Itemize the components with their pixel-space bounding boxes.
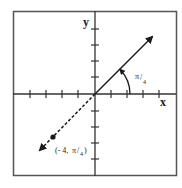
svg-text:4: 4 xyxy=(143,79,146,85)
angle-arc xyxy=(121,70,131,94)
negative-r-ray xyxy=(40,94,95,150)
point-label: (- 4, π / 4 ) xyxy=(55,146,87,157)
y-axis-label: y xyxy=(83,15,89,29)
svg-text:π: π xyxy=(72,146,76,155)
plotted-point xyxy=(50,134,55,139)
x-axis-label: x xyxy=(160,95,166,109)
svg-text:(- 4,: (- 4, xyxy=(55,146,68,155)
svg-text:): ) xyxy=(84,146,87,155)
angle-label: π / 4 xyxy=(135,72,146,85)
polar-diagram: y x π / 4 (- 4, π / 4 ) xyxy=(0,0,182,188)
svg-text:4: 4 xyxy=(80,151,83,157)
svg-text:π: π xyxy=(135,72,139,81)
terminal-ray xyxy=(95,37,152,94)
